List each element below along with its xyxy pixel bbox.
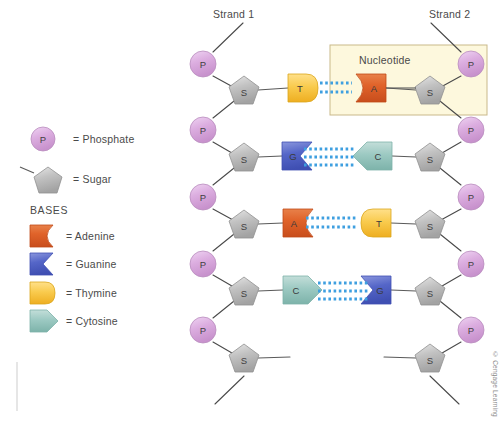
sugar-pentagon <box>229 344 259 372</box>
dna-structure-diagram: Strand 1 Strand 2 Nucleotide P P P P P P… <box>0 0 501 421</box>
strand2-sugars <box>415 76 445 372</box>
base-thymine <box>361 209 391 237</box>
legend-phosphate-label: = Phosphate <box>73 133 134 145</box>
sugar-pentagon <box>229 76 259 104</box>
strand1-bottom-tail <box>215 376 244 404</box>
legend-cytosine-swatch <box>30 310 58 332</box>
sugar-pentagon <box>415 143 445 171</box>
diagram-canvas <box>0 0 501 421</box>
sugar-pentagon <box>415 210 445 238</box>
legend-sugar-stub <box>20 167 34 173</box>
base-guanine <box>282 142 312 170</box>
phosphate-circle <box>190 251 216 277</box>
legend-thymine-label: = Thymine <box>66 287 117 299</box>
strand1-bottom-sugar-stub <box>258 357 290 358</box>
legend-bases-heading: BASES <box>30 204 68 216</box>
base-thymine <box>288 74 318 102</box>
legend-guanine-swatch <box>30 253 53 275</box>
strand1-sugars <box>229 76 259 372</box>
strand2-bottom-tail <box>430 376 459 404</box>
legend-phosphate-swatch <box>31 127 55 151</box>
phosphate-circle <box>458 251 484 277</box>
strand2-title: Strand 2 <box>429 8 470 20</box>
strand1-top-tail <box>213 23 243 52</box>
phosphate-circle <box>458 184 484 210</box>
sugar-pentagon <box>229 277 259 305</box>
phosphate-circle <box>458 317 484 343</box>
copyright-notice: © Cengage Learning <box>492 351 499 417</box>
phosphate-circle <box>190 117 216 143</box>
legend-cytosine-label: = Cytosine <box>66 315 118 327</box>
strand2-bottom-sugar-stub <box>384 357 416 358</box>
sugar-pentagon <box>415 277 445 305</box>
base-cytosine <box>283 276 322 304</box>
phosphate-circle <box>190 51 216 77</box>
strand1-title: Strand 1 <box>213 8 254 20</box>
legend-sugar-label: = Sugar <box>73 173 111 185</box>
legend-thymine-swatch <box>30 282 55 304</box>
phosphate-circle <box>458 51 484 77</box>
sugar-pentagon <box>415 344 445 372</box>
sugar-pentagon <box>229 143 259 171</box>
sugar-pentagon <box>229 210 259 238</box>
nucleotide-label: Nucleotide <box>359 54 411 66</box>
strand1-phosphates <box>190 51 216 343</box>
phosphate-circle <box>458 117 484 143</box>
legend-guanine-label: = Guanine <box>66 258 117 270</box>
legend-sugar-swatch <box>34 167 62 193</box>
base-adenine <box>283 209 313 237</box>
base-cytosine <box>353 142 392 170</box>
phosphate-circle <box>190 184 216 210</box>
legend-adenine-label: = Adenine <box>66 230 115 242</box>
phosphate-circle <box>190 317 216 343</box>
legend-adenine-swatch <box>30 225 53 247</box>
